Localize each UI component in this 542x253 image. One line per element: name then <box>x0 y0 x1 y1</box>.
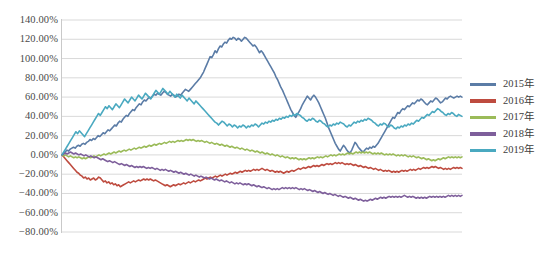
legend-label: 2017年 <box>503 112 534 123</box>
y-axis-tick-label: 80.00% <box>0 73 58 84</box>
legend-label: 2019年 <box>503 145 534 156</box>
y-axis-tick-label: 60.00% <box>0 92 58 103</box>
y-axis-tick-label: 20.00% <box>0 131 58 142</box>
legend-item[interactable]: 2015年 <box>470 76 542 93</box>
y-axis-tick-labels: 140.00%120.00%100.00%80.00%60.00%40.00%2… <box>0 0 58 253</box>
y-axis-tick-label: −80.00% <box>0 227 58 238</box>
y-axis-tick-label: 100.00% <box>0 54 58 65</box>
legend-color-swatch <box>470 99 496 103</box>
series-line <box>62 37 462 155</box>
plot-area <box>62 20 462 232</box>
legend-color-swatch <box>470 149 496 153</box>
legend-color-swatch <box>470 83 496 87</box>
legend-item[interactable]: 2016年 <box>470 93 542 110</box>
legend-color-swatch <box>470 132 496 136</box>
legend-label: 2018年 <box>503 129 534 140</box>
y-axis-tick-label: −60.00% <box>0 208 58 219</box>
legend-item[interactable]: 2017年 <box>470 109 542 126</box>
y-axis-tick-label: −20.00% <box>0 169 58 180</box>
series-line <box>62 152 462 201</box>
y-axis-tick-label: 0.00% <box>0 150 58 161</box>
legend-item[interactable]: 2018年 <box>470 126 542 143</box>
series-lines <box>62 20 462 232</box>
legend-color-swatch <box>470 116 496 120</box>
y-axis-tick-label: 40.00% <box>0 111 58 122</box>
y-axis-tick-label: −40.00% <box>0 188 58 199</box>
y-axis-tick-label: 120.00% <box>0 34 58 45</box>
series-line <box>62 155 462 187</box>
line-chart: 140.00%120.00%100.00%80.00%60.00%40.00%2… <box>0 0 542 253</box>
series-line <box>62 139 462 160</box>
y-axis-tick-label: 140.00% <box>0 15 58 26</box>
legend-item[interactable]: 2019年 <box>470 142 542 159</box>
legend-label: 2016年 <box>503 96 534 107</box>
chart-legend: 2015年2016年2017年2018年2019年 <box>470 76 542 159</box>
legend-label: 2015年 <box>503 79 534 90</box>
